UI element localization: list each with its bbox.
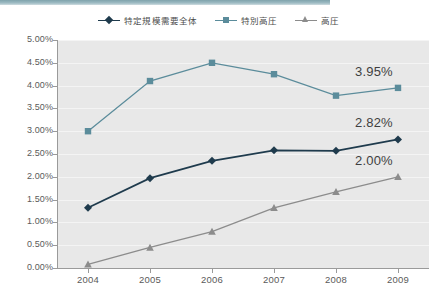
data-point-marker — [394, 135, 402, 143]
data-point-marker — [395, 85, 401, 91]
line-chart: 特定規模需要全体 特別高圧 高圧 0.00%0.50%1.00%1.50%2.0… — [0, 0, 437, 293]
series-line — [88, 139, 398, 207]
data-point-marker — [270, 146, 278, 154]
data-point-marker — [147, 78, 153, 84]
data-point-marker — [146, 174, 154, 182]
data-point-marker — [85, 128, 91, 134]
data-point-marker — [394, 173, 402, 180]
data-label-square: 3.95% — [355, 64, 393, 79]
data-point-marker — [333, 92, 339, 98]
data-point-marker — [208, 228, 216, 235]
data-point-marker — [208, 157, 216, 165]
data-point-marker — [209, 60, 215, 66]
data-label-diamond: 2.82% — [355, 115, 393, 130]
series-line — [88, 177, 398, 265]
data-point-marker — [84, 204, 92, 212]
data-point-marker — [271, 71, 277, 77]
series-2 — [85, 60, 401, 135]
data-point-marker — [332, 147, 340, 155]
data-label-triangle: 2.00% — [355, 153, 393, 168]
series-line — [88, 63, 398, 131]
series-1 — [84, 135, 402, 211]
series-layer — [0, 0, 437, 293]
